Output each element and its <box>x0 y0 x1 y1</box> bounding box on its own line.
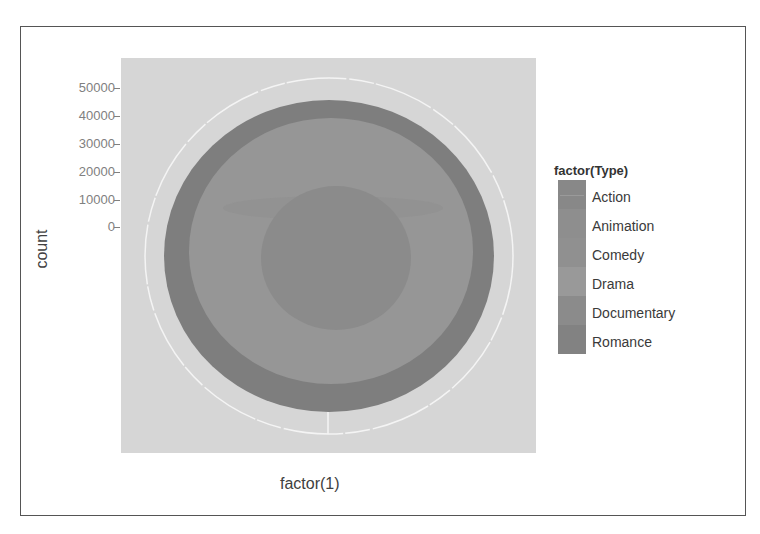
legend-label-documentary: Documentary <box>592 305 675 321</box>
legend-key-romance <box>558 325 586 354</box>
legend-label-animation: Animation <box>592 218 654 234</box>
legend-key-animation <box>558 209 586 238</box>
legend-label-drama: Drama <box>592 276 634 292</box>
legend-key-drama <box>558 267 586 296</box>
y-tick-10000: 10000 <box>79 193 115 207</box>
y-tick-mark <box>114 200 120 201</box>
legend-label-action: Action <box>592 189 631 205</box>
y-tick-mark <box>114 144 120 145</box>
legend-label-romance: Romance <box>592 334 652 350</box>
polar-chart <box>121 58 536 453</box>
y-tick-20000: 20000 <box>79 165 115 179</box>
y-tick-mark <box>114 172 120 173</box>
y-tick-40000: 40000 <box>79 109 115 123</box>
legend-title: factor(Type) <box>554 163 628 178</box>
legend-key-comedy <box>558 238 586 267</box>
ring-inner <box>261 186 411 330</box>
y-axis-label: count <box>33 219 51 279</box>
y-tick-50000: 50000 <box>79 81 115 95</box>
x-axis-label: factor(1) <box>280 475 340 493</box>
y-tick-30000: 30000 <box>79 137 115 151</box>
y-tick-mark <box>114 88 120 89</box>
legend-key-line <box>560 195 584 196</box>
y-tick-mark <box>114 227 120 228</box>
legend-key-documentary <box>558 296 586 325</box>
y-tick-mark <box>114 116 120 117</box>
legend-label-comedy: Comedy <box>592 247 644 263</box>
